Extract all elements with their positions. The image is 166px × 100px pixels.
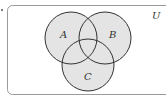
venn-diagram: A B C U xyxy=(0,0,166,100)
set-c-label: C xyxy=(84,71,92,82)
set-b-label: B xyxy=(108,29,116,40)
set-a-label: A xyxy=(59,29,67,40)
universe-label: U xyxy=(152,10,161,21)
